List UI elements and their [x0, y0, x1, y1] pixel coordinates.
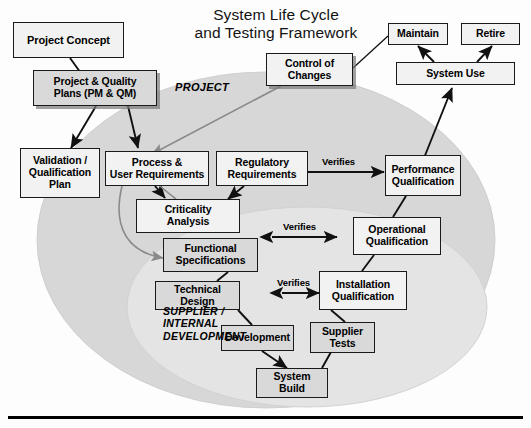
project-zone-label: PROJECT: [175, 81, 229, 94]
node-functional-specifications[interactable]: Functional Specifications: [163, 238, 258, 272]
node-performance-qualification[interactable]: Performance Qualification: [385, 155, 461, 196]
verifies-label-performance: Verifies: [322, 156, 355, 167]
node-project-concept[interactable]: Project Concept: [13, 22, 124, 58]
edge-systemuse-to-retire: [477, 46, 492, 62]
edge-systemuse-to-maintain: [418, 46, 434, 62]
node-system-build[interactable]: System Build: [256, 368, 328, 398]
node-process-user-requirements[interactable]: Process & User Requirements: [105, 151, 209, 186]
bottom-divider: [8, 416, 523, 419]
node-regulatory-requirements[interactable]: Regulatory Requirements: [216, 151, 308, 186]
node-installation-qualification[interactable]: Installation Qualification: [319, 271, 407, 310]
node-operational-qualification[interactable]: Operational Qualification: [353, 217, 441, 255]
diagram-canvas: System Life Cycle and Testing Framework …: [0, 0, 531, 428]
verifies-label-operational: Verifies: [283, 221, 316, 232]
node-criticality-analysis[interactable]: Criticality Analysis: [136, 199, 240, 233]
node-validation-qualification-plan[interactable]: Validation / Qualification Plan: [20, 148, 100, 198]
verifies-label-installation: Verifies: [277, 277, 310, 288]
supplier-zone-label: SUPPLIER / INTERNAL DEVELOPMENT: [163, 305, 246, 342]
node-project-quality-plans[interactable]: Project & Quality Plans (PM & QM): [33, 70, 157, 106]
node-maintain[interactable]: Maintain: [388, 23, 448, 45]
node-system-use[interactable]: System Use: [396, 62, 515, 85]
node-retire[interactable]: Retire: [461, 23, 520, 45]
node-control-of-changes[interactable]: Control of Changes: [266, 53, 353, 86]
page-title: System Life Cycle and Testing Framework: [176, 6, 376, 43]
node-supplier-tests[interactable]: Supplier Tests: [310, 322, 375, 353]
